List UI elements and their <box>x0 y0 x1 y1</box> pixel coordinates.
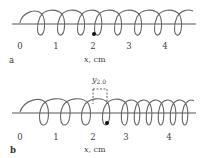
tick-label-1: 1 <box>53 132 58 142</box>
panel-label-b: b <box>10 145 16 155</box>
tick-label-2: 2 <box>90 41 95 51</box>
x-axis-ticks-b: 0 1 2 3 4 <box>17 132 171 142</box>
tick-label-2: 2 <box>90 132 95 142</box>
panel-b: y2.0 0 1 2 3 4 b x, cm <box>10 75 196 155</box>
tick-label-3: 3 <box>123 132 128 142</box>
marker-dot-a <box>92 32 96 36</box>
tick-label-0: 0 <box>17 41 22 51</box>
tick-label-4: 4 <box>166 132 171 142</box>
panel-label-a: a <box>9 55 14 65</box>
displacement-label: y2.0 <box>91 75 106 85</box>
x-axis-ticks-a: 0 1 2 3 4 <box>17 41 167 51</box>
tick-label-3: 3 <box>126 41 131 51</box>
x-axis-label-a: x, cm <box>84 55 106 64</box>
x-axis-label-b: x, cm <box>84 145 106 154</box>
tick-label-4: 4 <box>162 41 167 51</box>
spring-coils-a <box>20 10 193 35</box>
tick-label-1: 1 <box>53 41 58 51</box>
displacement-bracket <box>93 89 107 104</box>
tick-label-0: 0 <box>17 132 22 142</box>
marker-dot-b <box>105 121 109 125</box>
spring-wave-diagram: 0 1 2 3 4 a x, cm y2.0 0 1 2 3 4 b <box>0 0 204 158</box>
panel-a: 0 1 2 3 4 a x, cm <box>9 10 196 65</box>
